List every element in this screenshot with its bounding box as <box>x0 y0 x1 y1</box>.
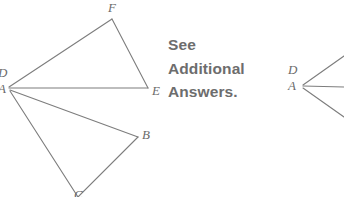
note-line-3: Answers. <box>168 80 264 104</box>
figure-page: D A F E B C D A See Additional Answers. <box>0 0 344 197</box>
vertex-label-A-right: A <box>288 79 296 92</box>
vertex-label-F: F <box>108 1 116 14</box>
note-line-1: See <box>168 33 264 57</box>
vertex-label-B: B <box>142 128 150 141</box>
note-line-2: Additional <box>168 57 264 81</box>
edge-D-F <box>9 19 112 87</box>
see-additional-answers-note: See Additional Answers. <box>168 33 264 104</box>
right-figure-rays <box>303 56 344 117</box>
left-figure-lower-triangle <box>10 90 138 197</box>
ray-D-upper <box>303 56 344 85</box>
ray-A-middle <box>303 86 344 87</box>
edge-A-B <box>10 90 138 137</box>
edge-C-A <box>10 91 78 197</box>
vertex-label-D-right: D <box>288 63 297 76</box>
edge-F-E <box>112 19 148 88</box>
left-figure-upper-triangle <box>9 19 148 88</box>
vertex-label-D-left: D <box>0 66 7 79</box>
vertex-label-C: C <box>74 188 83 197</box>
vertex-label-E: E <box>152 84 160 97</box>
vertex-label-A-left: A <box>0 82 6 95</box>
ray-A-lower <box>303 88 344 117</box>
edge-B-C <box>78 137 138 197</box>
